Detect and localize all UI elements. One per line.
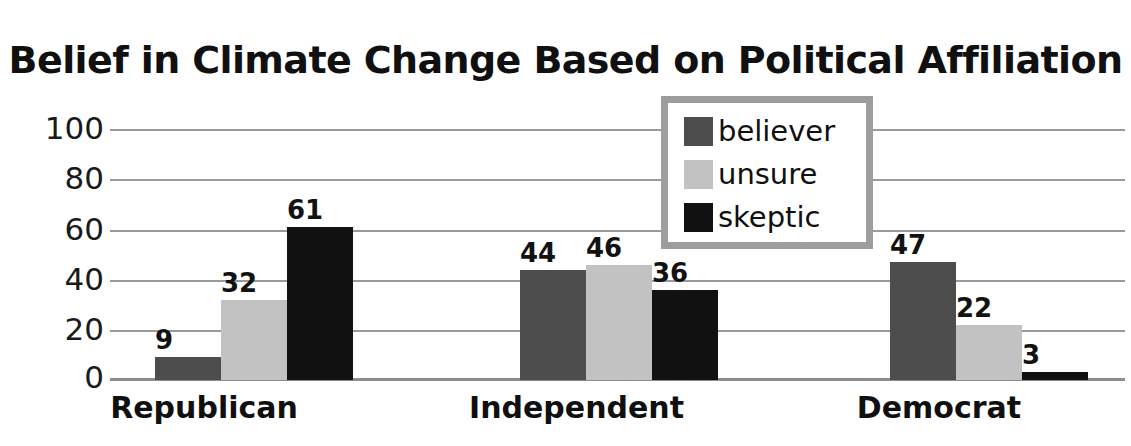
legend-label-unsure: unsure	[718, 160, 817, 189]
bar-value-independent-unsure: 46	[586, 235, 622, 261]
bar-republican-skeptic	[287, 227, 353, 380]
legend-item-skeptic: skeptic	[684, 203, 821, 232]
bar-independent-skeptic	[652, 290, 718, 380]
bar-democrat-skeptic	[1022, 372, 1088, 380]
chart-page: Belief in Climate Change Based on Politi…	[0, 0, 1131, 446]
legend-item-unsure: unsure	[684, 160, 817, 189]
legend-label-skeptic: skeptic	[718, 203, 821, 232]
bar-value-republican-skeptic: 61	[287, 197, 323, 223]
bar-value-republican-unsure: 32	[221, 270, 257, 296]
y-tick-40: 40	[14, 264, 104, 295]
bar-republican-believer	[155, 357, 221, 380]
x-tick-independent: Independent	[469, 390, 669, 425]
bar-republican-unsure	[221, 300, 287, 380]
bar-democrat-unsure	[956, 325, 1022, 380]
x-tick-democrat: Democrat	[839, 390, 1039, 425]
legend-label-believer: believer	[718, 117, 835, 146]
legend-swatch-unsure-icon	[684, 160, 713, 189]
y-tick-60: 60	[14, 214, 104, 245]
bar-value-independent-believer: 44	[520, 240, 556, 266]
plot-area: 100 80 60 40 20 0 9 32 61 44 46 36 47 22…	[110, 129, 1125, 380]
bar-value-republican-believer: 9	[155, 327, 173, 353]
bar-value-democrat-believer: 47	[890, 232, 926, 258]
y-tick-0: 0	[14, 362, 104, 393]
x-tick-republican: Republican	[104, 390, 304, 425]
bar-value-independent-skeptic: 36	[652, 260, 688, 286]
bar-value-democrat-unsure: 22	[956, 295, 992, 321]
y-tick-20: 20	[14, 314, 104, 345]
y-tick-80: 80	[14, 163, 104, 194]
chart-title: Belief in Climate Change Based on Politi…	[0, 38, 1131, 82]
legend-item-believer: believer	[684, 117, 835, 146]
gridline-60	[110, 230, 1125, 232]
y-tick-100: 100	[14, 113, 104, 144]
legend-swatch-skeptic-icon	[684, 203, 713, 232]
bar-independent-unsure	[586, 265, 652, 380]
gridline-100	[110, 129, 1125, 131]
bar-independent-believer	[520, 270, 586, 380]
chart-legend: believer unsure skeptic	[661, 96, 873, 249]
legend-swatch-believer-icon	[684, 117, 713, 146]
bar-democrat-believer	[890, 262, 956, 380]
gridline-80	[110, 179, 1125, 181]
bar-value-democrat-skeptic: 3	[1022, 342, 1040, 368]
